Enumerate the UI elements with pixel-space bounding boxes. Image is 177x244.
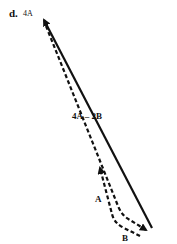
vector-a-label: A — [95, 195, 102, 204]
vector-diagram: d. 4A 4A – 2B A B — [0, 0, 177, 244]
vector-diagram-svg — [0, 0, 177, 244]
vector-b-label: B — [122, 234, 128, 243]
vector-4a-label: 4A — [23, 10, 33, 18]
panel-label: d. — [9, 8, 18, 19]
resultant-vector-label: 4A – 2B — [72, 112, 102, 121]
